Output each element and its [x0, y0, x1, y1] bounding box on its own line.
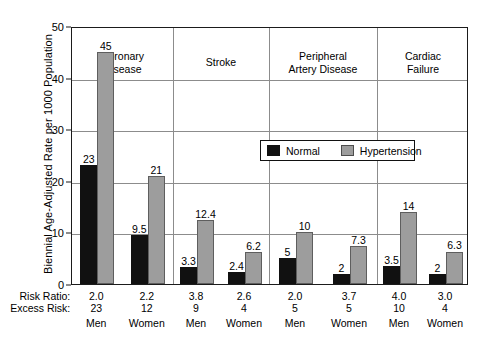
- bar-hypertension-1-men: [97, 52, 114, 284]
- annotation-cell: 3.7: [342, 290, 357, 302]
- bar-value-label: 14: [403, 200, 415, 212]
- bar-value-label: 2.4: [229, 260, 244, 272]
- bar-value-label: 45: [100, 40, 112, 52]
- bar-value-label: 2: [339, 262, 345, 274]
- annotation-cell: Women: [129, 317, 165, 329]
- group-label-line2: Failure: [353, 63, 482, 76]
- bar-value-label: 10: [299, 220, 311, 232]
- annotation-cell: 4: [241, 302, 247, 314]
- annotation-cell: Women: [331, 317, 367, 329]
- annotation-cell: 9: [193, 302, 199, 314]
- bar-value-label: 9.5: [132, 223, 147, 235]
- annotation-row-label-1: Risk Ratio:: [0, 290, 70, 302]
- annotation-row-label-2: Excess Risk:: [0, 302, 70, 314]
- annotation-cell: 5: [292, 302, 298, 314]
- annotation-cell: Women: [226, 317, 262, 329]
- legend: Normal Hypertension: [260, 140, 415, 161]
- group-label-line1: Cardiac: [353, 50, 482, 63]
- y-tick-30: 30: [22, 124, 64, 136]
- bar-hypertension-3-men: [296, 232, 313, 284]
- bar-value-label: 23: [83, 153, 95, 165]
- bar-value-label: 7.3: [351, 234, 366, 246]
- legend-label-normal: Normal: [286, 145, 320, 157]
- legend-label-hypertension: Hypertension: [360, 145, 422, 157]
- y-tick-20: 20: [22, 176, 64, 188]
- bar-value-label: 6.2: [246, 240, 261, 252]
- annotation-cell: 5: [346, 302, 352, 314]
- bar-normal-2-women: [228, 272, 245, 284]
- annotation-cell: 2.2: [139, 290, 154, 302]
- bar-normal-1-men: [80, 165, 97, 284]
- annotation-cell: Men: [86, 317, 106, 329]
- annotation-cell: 3.8: [189, 290, 204, 302]
- annotation-cell: 10: [393, 302, 405, 314]
- bar-normal-4-men: [383, 266, 400, 284]
- bar-normal-2-men: [180, 267, 197, 284]
- legend-swatch-normal: [267, 145, 280, 156]
- bar-hypertension-2-women: [245, 252, 262, 284]
- bar-hypertension-4-women: [446, 252, 463, 285]
- annotation-cell: Men: [186, 317, 206, 329]
- bar-hypertension-4-men: [400, 212, 417, 284]
- bar-normal-3-women: [333, 274, 350, 284]
- bar-value-label: 3.3: [181, 255, 196, 267]
- bar-value-label: 21: [150, 164, 162, 176]
- y-tick-50: 50: [22, 21, 64, 33]
- bar-normal-1-women: [131, 235, 148, 284]
- plot-area: CoronaryDiseaseStrokePeripheralArtery Di…: [71, 27, 468, 285]
- annotation-cell: 23: [90, 302, 102, 314]
- y-tick-10: 10: [22, 227, 64, 239]
- bar-value-label: 5: [285, 246, 291, 258]
- annotation-cell: 2.0: [89, 290, 104, 302]
- bar-normal-3-men: [279, 258, 296, 284]
- annotation-cell: Men: [389, 317, 409, 329]
- bar-hypertension-3-women: [350, 246, 367, 284]
- annotation-cell: 12: [141, 302, 153, 314]
- annotation-cell: 3.0: [438, 290, 453, 302]
- annotation-cell: Women: [427, 317, 463, 329]
- bar-value-label: 6.3: [447, 239, 462, 251]
- bar-value-label: 12.4: [195, 208, 215, 220]
- bar-value-label: 3.5: [384, 254, 399, 266]
- annotation-cell: 4: [442, 302, 448, 314]
- bar-value-label: 2: [435, 262, 441, 274]
- bar-hypertension-2-men: [197, 220, 214, 284]
- bar-hypertension-1-women: [148, 176, 165, 284]
- chart-figure: Biennial Age-Adjusted Rate per 1000 Popu…: [0, 0, 482, 353]
- bar-normal-4-women: [429, 274, 446, 284]
- annotation-cell: 4.0: [392, 290, 407, 302]
- annotation-cell: Men: [285, 317, 305, 329]
- annotation-cell: 2.0: [288, 290, 303, 302]
- legend-swatch-hypertension: [341, 145, 354, 156]
- group-label-4: CardiacFailure: [353, 50, 482, 75]
- annotation-cell: 2.6: [237, 290, 252, 302]
